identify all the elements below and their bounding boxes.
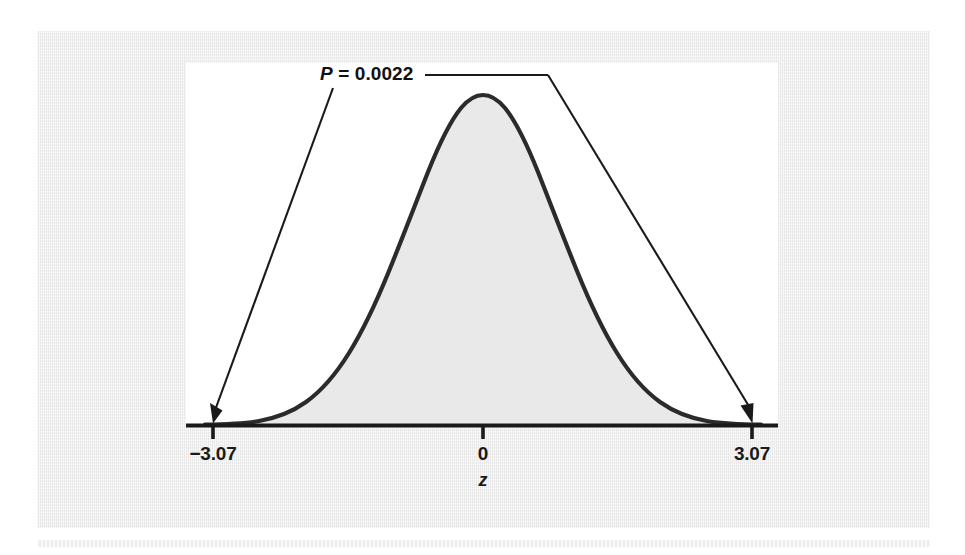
axis-title-z: z: [479, 470, 488, 491]
p-equation-value: = 0.0022: [333, 63, 414, 84]
annotation-arrow-right-head: [741, 403, 754, 424]
axis-tick-label-left: −3.07: [189, 443, 236, 465]
axis-tick-label-center: 0: [478, 443, 488, 465]
p-value-annotation-label: P = 0.0022: [320, 63, 413, 85]
p-symbol: P: [320, 63, 333, 84]
figure-separator-band: [37, 540, 930, 547]
annotation-arrow-left-shaft: [216, 88, 334, 409]
axis-tick-label-right: 3.07: [734, 443, 770, 465]
normal-curve-filled-area: [205, 95, 761, 425]
figure-root: P = 0.0022 −3.07 0 3.07 z: [0, 0, 965, 555]
